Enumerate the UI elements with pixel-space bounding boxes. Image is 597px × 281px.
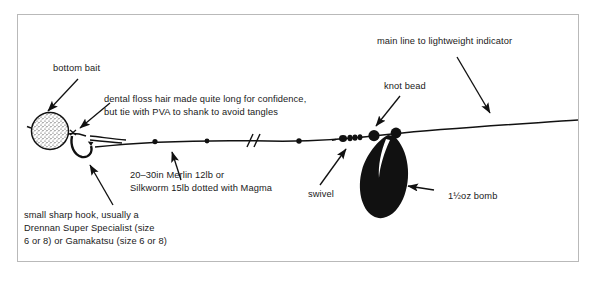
arrow-swivel xyxy=(320,149,346,185)
label-hooklink-line2: Silkworm 15lb dotted with Magma xyxy=(130,182,272,194)
label-main-line: main line to lightweight indicator xyxy=(377,35,512,47)
label-knot-bead: knot bead xyxy=(384,80,426,92)
bomb-weight xyxy=(360,128,408,219)
label-bottom-bait: bottom bait xyxy=(53,62,100,74)
knot-bead xyxy=(368,130,379,141)
arrow-knot-bead xyxy=(376,96,400,126)
arrow-bottom-bait xyxy=(48,79,78,111)
hair-rig-line xyxy=(68,130,86,136)
label-bomb: 1½oz bomb xyxy=(448,190,497,202)
figure-canvas: bottom bait dental floss hair made quite… xyxy=(0,0,597,281)
arrow-hook xyxy=(90,165,113,205)
arrow-bomb xyxy=(408,186,434,190)
label-hooklink-line1: 20–30in Merlin 12lb or xyxy=(130,169,224,181)
bottom-bait-boilie xyxy=(27,113,69,150)
arrow-main-line xyxy=(457,57,490,113)
label-hook-line1: small sharp hook, usually a xyxy=(24,209,139,221)
label-dental-floss-line2: but tie with PVA to shank to avoid tangl… xyxy=(104,106,278,118)
label-dental-floss-line1: dental floss hair made quite long for co… xyxy=(104,93,306,105)
main-line xyxy=(95,120,578,147)
label-hook-line2: Drennan Super Specialist (size xyxy=(24,222,155,234)
label-hook-line3: 6 or 8) or Gamakatsu (size 6 or 8) xyxy=(24,235,167,247)
label-swivel: swivel xyxy=(308,188,334,200)
